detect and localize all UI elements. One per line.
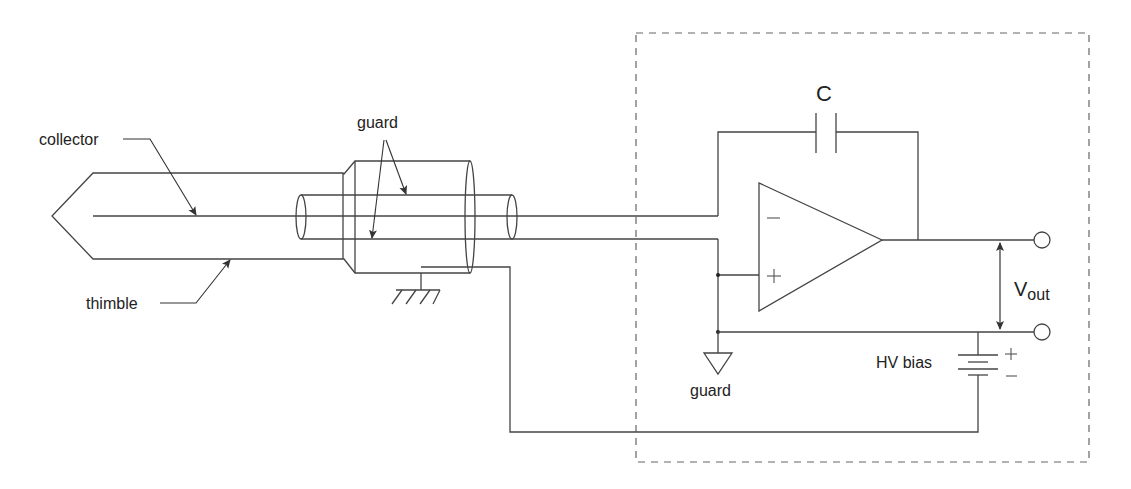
guard-connector (330, 161, 475, 273)
guard-symbol-icon (704, 332, 732, 374)
junction-dot (716, 273, 720, 277)
label-guard-cable: guard (357, 114, 398, 131)
thimble-callout (160, 260, 230, 303)
bias-return-wire (421, 267, 978, 432)
guard-callout-a (386, 140, 406, 194)
label-capacitor: C (816, 81, 832, 106)
circuit-diagram: collector thimble guard C guard Vout HV … (0, 0, 1131, 489)
opamp-symbol (759, 183, 882, 311)
inner-guard-tube (296, 195, 718, 239)
feedback-capacitor (718, 113, 918, 240)
output-terminal-bottom[interactable] (1034, 324, 1050, 340)
label-hv-bias: HV bias (876, 354, 932, 371)
label-collector: collector (39, 131, 99, 148)
label-guard-symbol: guard (690, 382, 731, 399)
hv-battery-icon (958, 332, 1017, 376)
earth-ground-icon (392, 273, 440, 304)
output-terminal-top[interactable] (1034, 232, 1050, 248)
label-thimble: thimble (86, 295, 138, 312)
label-vout: Vout (1014, 278, 1050, 303)
guard-callout-b (372, 140, 384, 238)
collector-callout (123, 139, 196, 215)
